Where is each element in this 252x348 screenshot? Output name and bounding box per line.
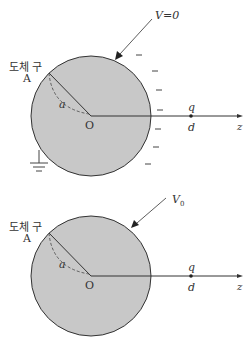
axis-label: z <box>236 121 243 132</box>
diagram: a O z q d V=0 도체 구 A <box>0 0 252 348</box>
panel-fixed-potential: a O z q d V0 도체 구 A <box>9 193 243 336</box>
potential-arrowhead-icon <box>131 220 139 228</box>
potential-arrow <box>120 19 152 54</box>
radius-label: a <box>59 98 66 111</box>
origin-label: O <box>85 279 94 292</box>
axis-label: z <box>236 281 243 292</box>
z-axis-arrowhead-icon <box>237 114 243 118</box>
potential-arrow <box>137 198 166 223</box>
radius-label: a <box>59 258 66 271</box>
distance-label: d <box>188 281 195 294</box>
panel-grounded: a O z q d V=0 도체 구 A <box>9 9 243 176</box>
sphere-letter: A <box>22 72 32 85</box>
charge-label: q <box>188 101 195 114</box>
potential-label: V=0 <box>155 9 179 22</box>
potential-label: V0 <box>172 193 184 208</box>
charge-label: q <box>188 261 195 274</box>
point-charge <box>189 274 193 278</box>
z-axis-arrowhead-icon <box>237 274 243 278</box>
origin-label: O <box>85 119 94 132</box>
sphere-letter: A <box>22 232 32 245</box>
point-charge <box>189 114 193 118</box>
distance-label: d <box>188 121 195 134</box>
